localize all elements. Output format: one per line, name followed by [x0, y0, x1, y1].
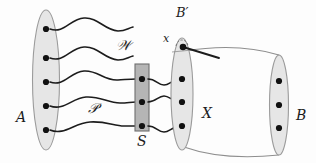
point-s-3 [139, 123, 145, 129]
label-set-s: S [137, 134, 147, 148]
set-s-rectangle [135, 64, 149, 131]
label-set-b: B [296, 108, 306, 122]
figure-canvas: A S X B B′ x 𝒲 𝒫 [0, 0, 316, 163]
cylinder-tube [184, 48, 279, 157]
point-a-1 [43, 26, 49, 32]
set-x-ellipse [171, 38, 193, 150]
label-set-a: A [16, 110, 26, 124]
point-a-2 [43, 55, 49, 61]
point-a-4 [43, 103, 49, 109]
set-s-shape [135, 64, 149, 131]
point-a-5 [43, 127, 49, 133]
label-set-x: X [202, 106, 212, 120]
label-family-p: 𝒫 [88, 101, 98, 115]
point-s-1 [139, 76, 145, 82]
label-point-x: x [163, 33, 169, 44]
point-a-3 [43, 79, 49, 85]
p-curve-3 [50, 122, 136, 132]
point-x-2 [179, 99, 185, 105]
p-curve-1 [50, 71, 136, 83]
label-family-w: 𝒲 [116, 38, 131, 52]
diagram-svg [0, 0, 316, 163]
w-curve-1 [50, 18, 133, 31]
point-x-3 [179, 123, 185, 129]
set-x-shape [171, 38, 193, 150]
label-subset-b-prime: B′ [176, 6, 189, 19]
point-b-1 [276, 78, 282, 84]
point-b-3 [276, 125, 282, 131]
cylinder-bottom-edge [184, 147, 279, 157]
point-b-2 [276, 102, 282, 108]
point-x-marked [180, 44, 187, 51]
point-x-1 [179, 76, 185, 82]
point-s-2 [139, 99, 145, 105]
